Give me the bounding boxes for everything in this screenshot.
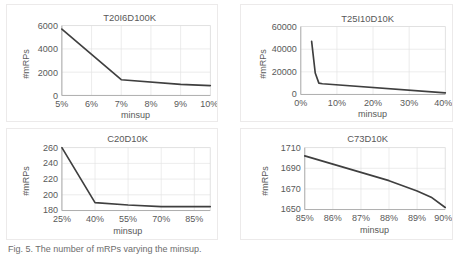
svg-text:70%: 70%: [152, 214, 170, 224]
svg-text:1710: 1710: [281, 143, 301, 153]
series-line: [62, 148, 210, 207]
svg-text:9%: 9%: [174, 99, 187, 109]
svg-text:4000: 4000: [38, 44, 58, 54]
svg-text:30%: 30%: [400, 98, 418, 108]
x-axis-title: minsup: [360, 225, 389, 235]
svg-text:89%: 89%: [408, 213, 426, 223]
svg-text:2000: 2000: [38, 68, 58, 78]
svg-text:10%: 10%: [200, 99, 217, 109]
x-axis-title: minsup: [121, 110, 150, 120]
svg-text:240: 240: [43, 158, 58, 168]
svg-text:25%: 25%: [53, 214, 71, 224]
chart-title: C20D10K: [107, 133, 149, 144]
svg-text:8%: 8%: [144, 99, 157, 109]
chart-t20i6d100k: T20I6D100K 6000 4000 2000 0 #mRPs 5%: [6, 4, 218, 122]
gridlines: [62, 148, 210, 211]
svg-text:86%: 86%: [324, 213, 342, 223]
svg-text:10%: 10%: [328, 98, 346, 108]
svg-text:40000: 40000: [272, 44, 297, 54]
series-line: [305, 156, 445, 208]
y-axis-title: #mRPs: [22, 166, 32, 196]
chart-c73d10k: C73D10K 1710 1690 1670 1650 #mRPs 85%: [240, 128, 453, 240]
svg-text:60000: 60000: [272, 22, 297, 32]
chart-t25i10d10k-svg: T25I10D10K 60000 40000 20000 0 #mRPs 0%: [241, 5, 452, 121]
svg-text:200: 200: [43, 190, 58, 200]
chart-c73d10k-svg: C73D10K 1710 1690 1670 1650 #mRPs 85%: [241, 129, 452, 239]
svg-text:85%: 85%: [296, 213, 314, 223]
x-axis-tick-labels: 85% 86% 87% 88% 89% 90%: [296, 213, 452, 223]
gridlines: [305, 148, 445, 210]
chart-t25i10d10k: T25I10D10K 60000 40000 20000 0 #mRPs 0%: [240, 4, 453, 122]
y-axis-tick-labels: 1710 1690 1670 1650: [281, 143, 301, 215]
y-axis-tick-labels: 6000 4000 2000 0: [38, 21, 58, 102]
svg-text:0%: 0%: [294, 98, 307, 108]
svg-text:20000: 20000: [272, 67, 297, 77]
chart-t20i6d100k-svg: T20I6D100K 6000 4000 2000 0 #mRPs 5%: [7, 5, 217, 121]
y-axis-tick-labels: 260 240 220 200 180: [43, 143, 58, 216]
series-line: [62, 29, 210, 85]
svg-text:260: 260: [43, 143, 58, 153]
x-axis-tick-labels: 0% 10% 20% 30% 40%: [294, 98, 452, 108]
chart-c20d10k: C20D10K 260 240 220 200 180 #mRPs: [6, 128, 218, 240]
chart-title: T25I10D10K: [341, 13, 395, 24]
y-axis-tick-labels: 60000 40000 20000 0: [272, 22, 297, 100]
svg-text:6000: 6000: [38, 21, 58, 31]
svg-text:88%: 88%: [380, 213, 398, 223]
y-axis-title: #mRPs: [258, 49, 268, 79]
chart-title: T20I6D100K: [103, 12, 157, 23]
x-axis-tick-labels: 25% 40% 55% 70% 85%: [53, 214, 203, 224]
svg-text:5%: 5%: [55, 99, 68, 109]
chart-title: C73D10K: [347, 133, 389, 144]
svg-text:40%: 40%: [86, 214, 104, 224]
chart-c20d10k-svg: C20D10K 260 240 220 200 180 #mRPs: [7, 129, 217, 239]
x-axis-tick-labels: 5% 6% 7% 8% 9% 10%: [55, 99, 217, 109]
svg-text:1670: 1670: [281, 184, 301, 194]
y-axis-title: #mRPs: [260, 166, 270, 196]
svg-text:6%: 6%: [85, 99, 98, 109]
x-axis-title: minsup: [113, 226, 142, 236]
x-axis-title: minsup: [358, 109, 387, 119]
svg-text:20%: 20%: [364, 98, 382, 108]
svg-text:87%: 87%: [352, 213, 370, 223]
figure-caption: Fig. 5. The number of mRPs varying the m…: [8, 244, 458, 254]
svg-text:7%: 7%: [115, 99, 128, 109]
svg-text:55%: 55%: [119, 214, 137, 224]
svg-text:40%: 40%: [434, 98, 452, 108]
svg-text:220: 220: [43, 174, 58, 184]
svg-text:85%: 85%: [185, 214, 203, 224]
svg-text:90%: 90%: [434, 213, 452, 223]
svg-text:1690: 1690: [281, 163, 301, 173]
y-axis-title: #mRPs: [21, 49, 31, 79]
